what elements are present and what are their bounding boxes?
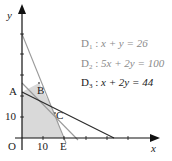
point-b-label: B: [37, 85, 44, 96]
point-a-label: A: [9, 86, 17, 97]
x-axis-arrow-icon: [150, 134, 160, 142]
legend-d2: D2 : 5x + 2y = 100: [81, 56, 164, 76]
point-e-label: E: [60, 141, 67, 152]
legend-d3: D3 : x + 2y = 44: [81, 75, 164, 95]
y-axis-label: y: [7, 10, 12, 21]
y-axis-arrow-icon: [18, 4, 26, 14]
x-tick-label-10: 10: [37, 141, 48, 152]
x-axis-label: x: [151, 143, 156, 154]
y-tick-label-10: 10: [5, 111, 16, 122]
origin-label: O: [8, 141, 16, 152]
legend: D1 : x + y = 26 D2 : 5x + 2y = 100 D3 : …: [81, 36, 164, 95]
point-c-label: C: [56, 110, 63, 121]
legend-d1: D1 : x + y = 26: [81, 36, 164, 56]
